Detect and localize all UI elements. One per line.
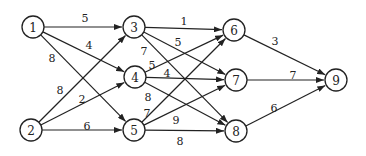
arrow-icon [244, 35, 325, 75]
node-label: 8 [232, 125, 240, 139]
node-3: 3 [123, 16, 145, 38]
node-label: 3 [130, 21, 138, 35]
edge-5-to-8 [145, 130, 224, 131]
node-label: 7 [232, 74, 240, 88]
node-label: 2 [27, 124, 35, 138]
arrow-icon [246, 85, 326, 126]
edge-weight-label: 7 [290, 69, 297, 82]
edge-weight-label: 4 [86, 39, 93, 52]
node-4: 4 [124, 66, 146, 88]
edge-weight-label: 1 [181, 15, 188, 28]
edge-weight-label: 5 [149, 59, 156, 72]
edge-weight-label: 2 [79, 93, 86, 106]
edge-weight-label: 5 [82, 12, 89, 25]
edge-weight-label: 8 [49, 52, 56, 65]
edge-weight-label: 7 [141, 45, 148, 58]
edge-weight-label: 8 [177, 135, 184, 148]
edge-weight-label: 6 [271, 102, 278, 115]
edge-weight-label: 8 [145, 91, 152, 104]
node-6: 6 [223, 19, 245, 41]
edges [39, 27, 326, 131]
edge-weight-label: 4 [164, 67, 171, 80]
node-5: 5 [123, 119, 145, 141]
edge-2-to-3 [39, 35, 126, 122]
node-8: 8 [225, 120, 247, 142]
edge-weight-label: 5 [175, 36, 182, 49]
arrow-icon [145, 130, 224, 131]
node-label: 6 [230, 24, 238, 38]
directed-graph: 548826157548798376 123456789 [0, 0, 366, 156]
edge-weight-label: 7 [144, 107, 151, 120]
node-label: 4 [131, 71, 139, 85]
edge-weight-label: 6 [84, 120, 91, 133]
edge-6-to-9 [244, 35, 325, 75]
edge-weight-label: 9 [173, 114, 180, 127]
node-label: 1 [29, 21, 37, 35]
node-label: 5 [130, 124, 138, 138]
edge-weight-label: 3 [272, 35, 279, 48]
edge-8-to-9 [246, 85, 326, 126]
arrow-icon [142, 38, 226, 122]
edge-weight-label: 8 [57, 84, 64, 97]
node-label: 9 [332, 74, 340, 88]
node-9: 9 [325, 69, 347, 91]
edge-3-to-6 [145, 27, 222, 29]
edge-5-to-6 [142, 38, 226, 122]
arrow-icon [39, 35, 126, 122]
arrow-icon [145, 27, 222, 29]
node-2: 2 [20, 119, 42, 141]
node-1: 1 [22, 16, 44, 38]
node-7: 7 [225, 69, 247, 91]
